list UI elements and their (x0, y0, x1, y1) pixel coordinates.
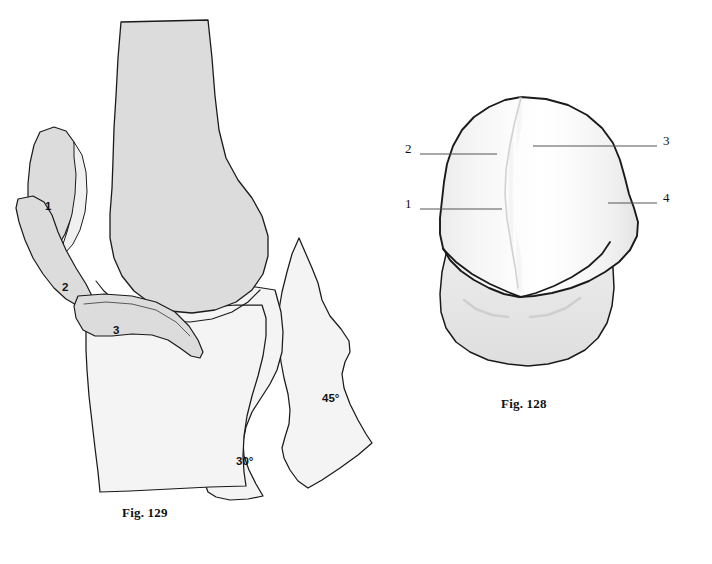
fig129-angle-label-45: 45° (322, 392, 339, 404)
fig129-patella-label-2: 2 (62, 281, 68, 293)
fig128-callout-label-1: 1 (405, 196, 412, 212)
figure-plate (0, 0, 712, 564)
fig128-callout-label-2: 2 (405, 141, 412, 157)
fig-128-caption: Fig. 128 (501, 396, 547, 412)
fig-129-caption: Fig. 129 (122, 505, 168, 521)
fig129-patella-label-3: 3 (113, 324, 119, 336)
fig129-angle-label-30: 30° (236, 455, 253, 467)
fig128-callout-label-4: 4 (663, 190, 670, 206)
fig128-callout-label-3: 3 (663, 133, 670, 149)
fig129-patella-label-1: 1 (45, 200, 51, 212)
